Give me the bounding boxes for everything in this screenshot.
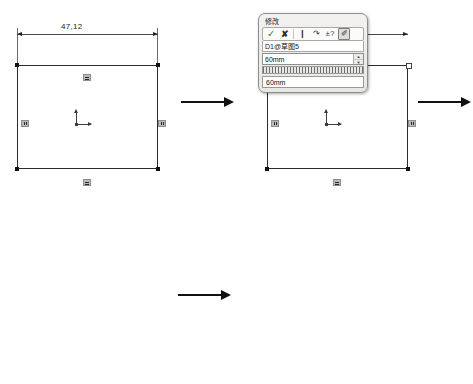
constraint-vertical-left-icon-2[interactable]: [271, 120, 279, 127]
sketch-node-br-2[interactable]: [406, 167, 410, 171]
dim-arrow-left-icon: [17, 32, 22, 36]
dimension-value-text[interactable]: 60mm: [263, 54, 353, 64]
constraint-horizontal-bottom-icon-2[interactable]: [333, 179, 341, 186]
dim-arrow-right-icon: [403, 32, 408, 36]
arrow-step3-to-step4: [178, 294, 222, 296]
origin-point-icon: [75, 123, 78, 126]
dimension-line-width-1[interactable]: [17, 34, 158, 35]
constraint-vertical-left-icon[interactable]: [21, 120, 29, 127]
sketch-node-tr-2[interactable]: [406, 63, 412, 69]
modify-dialog[interactable]: 修改 ✓ ✘ ❙ ↷ ±? ✐ D1@草图5 60mm ▲ ▼ 60mm: [258, 13, 368, 93]
modify-dialog-title: 修改: [262, 16, 364, 27]
sketch-origin-2: [326, 124, 327, 125]
dimension-value-echo: 60mm: [262, 76, 364, 88]
rebuild-icon[interactable]: ❙: [296, 28, 308, 40]
sketch-node-br[interactable]: [156, 167, 160, 171]
confirm-icon[interactable]: ✓: [265, 28, 277, 40]
constraint-vertical-right-icon[interactable]: [158, 120, 166, 127]
origin-x-axis-icon: [326, 124, 341, 125]
dimension-value-input[interactable]: 60mm ▲ ▼: [262, 53, 364, 65]
origin-point-icon: [325, 123, 328, 126]
constraint-horizontal-top-icon[interactable]: [83, 74, 91, 81]
origin-y-axis-icon: [76, 110, 77, 124]
dimension-value-width-1[interactable]: 47,12: [61, 22, 83, 31]
panel-step1: 47,12: [0, 0, 175, 200]
mark-for-drawing-icon[interactable]: ✐: [338, 28, 350, 40]
constraint-horizontal-bottom-icon[interactable]: [83, 179, 91, 186]
modify-dialog-toolbar[interactable]: ✓ ✘ ❙ ↷ ±? ✐: [262, 27, 364, 41]
dim-arrow-right-icon: [153, 32, 158, 36]
sketch-node-tl[interactable]: [15, 63, 19, 67]
sketch-origin-1: [76, 124, 77, 125]
sketch-node-bl[interactable]: [15, 167, 19, 171]
panel-step3: 60: [30, 210, 210, 370]
dimension-variable-name: D1@草图5: [262, 41, 364, 52]
origin-y-axis-icon: [326, 110, 327, 124]
toolbar-separator: [293, 29, 294, 39]
constraint-vertical-right-icon-2[interactable]: [408, 120, 416, 127]
dimension-thumbwheel-slider[interactable]: [262, 66, 364, 74]
sketch-node-tr[interactable]: [156, 63, 160, 67]
cancel-icon[interactable]: ✘: [279, 28, 291, 40]
spinner-down-icon[interactable]: ▼: [354, 60, 363, 65]
sketch-node-bl-2[interactable]: [265, 167, 269, 171]
arrow-step1-to-step2: [181, 101, 225, 103]
undo-icon[interactable]: ↷: [310, 28, 322, 40]
dimension-spinner[interactable]: ▲ ▼: [353, 54, 363, 64]
panel-step4: 60 56: [230, 210, 430, 380]
arrow-step2-to-step3: [418, 101, 462, 103]
tolerance-icon[interactable]: ±?: [324, 28, 336, 40]
origin-x-axis-icon: [76, 124, 91, 125]
